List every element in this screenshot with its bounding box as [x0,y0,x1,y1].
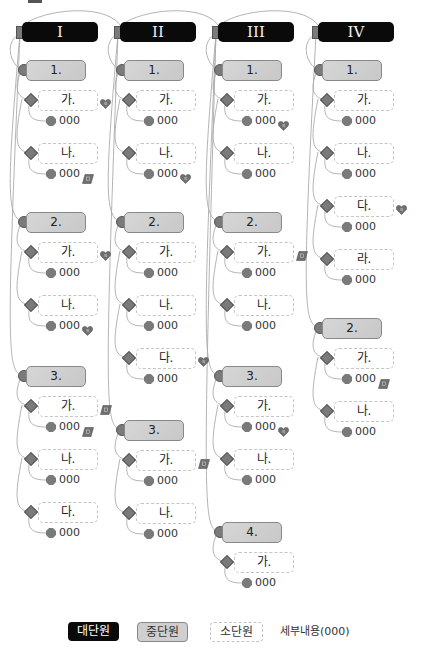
minor-unit-marker-icon [220,146,234,160]
minor-unit-node[interactable]: 가. [38,396,98,417]
minor-unit-node[interactable]: 가. [334,348,394,369]
detail-content[interactable]: 000 [59,267,80,279]
heart-icon: 의 [278,116,289,126]
detail-content[interactable]: 000 [255,577,276,589]
detail-marker-icon [144,374,154,384]
detail-content[interactable]: 000 [255,267,276,279]
mid-unit-node[interactable]: 3. [124,420,184,441]
mid-unit-node[interactable]: 1. [26,60,86,81]
minor-unit-node[interactable]: 나. [38,143,98,164]
detail-marker-icon [46,169,56,179]
minor-unit-node[interactable]: 가. [38,242,98,263]
detail-content[interactable]: 000 [255,168,276,180]
detail-content[interactable]: 000 [157,115,178,127]
note-icon [378,374,390,384]
detail-marker-icon [242,268,252,278]
detail-marker-icon [242,475,252,485]
mid-unit-node[interactable]: 2. [222,212,282,233]
detail-content[interactable]: 000 [157,267,178,279]
minor-unit-node[interactable]: 가. [234,396,294,417]
detail-marker-icon [144,268,154,278]
detail-marker-icon [144,116,154,126]
mid-unit-node[interactable]: 2. [26,212,86,233]
note-icon [82,422,94,432]
minor-unit-marker-icon [122,351,136,365]
mid-unit-node[interactable]: 4. [222,522,282,543]
mid-unit-node[interactable]: 3. [222,366,282,387]
detail-marker-icon [144,169,154,179]
detail-content[interactable]: 000 [157,528,178,540]
detail-content[interactable]: 000 [255,474,276,486]
heart-icon: 의 [278,422,289,432]
detail-marker-icon [144,321,154,331]
minor-unit-node[interactable]: 나. [234,143,294,164]
detail-content[interactable]: 000 [59,474,80,486]
detail-content[interactable]: 000 [255,421,276,433]
minor-unit-node[interactable]: 나. [334,143,394,164]
detail-marker-icon [242,116,252,126]
minor-unit-node[interactable]: 가. [234,90,294,111]
major-unit-node[interactable]: II [120,22,196,42]
minor-unit-node[interactable]: 가. [136,450,196,471]
detail-content[interactable]: 000 [157,373,178,385]
detail-content[interactable]: 000 [59,168,80,180]
minor-unit-marker-icon [122,298,136,312]
mid-unit-node[interactable]: 2. [322,318,382,339]
minor-unit-node[interactable]: 나. [38,449,98,470]
detail-content[interactable]: 000 [255,320,276,332]
minor-unit-node[interactable]: 다. [334,196,394,217]
detail-content[interactable]: 000 [157,475,178,487]
svg-text:의: 의 [400,207,403,212]
minor-unit-marker-icon [24,146,38,160]
major-unit-node[interactable]: I [22,22,98,42]
heart-icon: 의 [198,352,209,362]
minor-unit-marker-icon [122,506,136,520]
minor-unit-node[interactable]: 가. [136,90,196,111]
major-unit-node[interactable]: III [218,22,294,42]
detail-content[interactable]: 000 [255,115,276,127]
detail-content[interactable]: 000 [355,274,376,286]
svg-text:의: 의 [202,359,205,364]
mid-unit-node[interactable]: 1. [222,60,282,81]
detail-content[interactable]: 000 [355,168,376,180]
detail-content[interactable]: 000 [157,320,178,332]
detail-content[interactable]: 000 [355,373,376,385]
minor-unit-node[interactable]: 다. [136,348,196,369]
minor-unit-node[interactable]: 나. [234,449,294,470]
detail-content[interactable]: 000 [157,168,178,180]
legend-mid-unit: 중단원 [137,622,188,642]
minor-unit-node[interactable]: 가. [334,90,394,111]
detail-marker-icon [242,321,252,331]
minor-unit-node[interactable]: 가. [38,90,98,111]
mid-unit-node[interactable]: 1. [322,60,382,81]
detail-content[interactable]: 000 [355,221,376,233]
detail-content[interactable]: 000 [59,115,80,127]
detail-content[interactable]: 000 [59,320,80,332]
minor-unit-marker-icon [320,252,334,266]
detail-content[interactable]: 000 [59,421,80,433]
legend-major-unit: 대단원 [68,622,119,641]
minor-unit-node[interactable]: 나. [136,143,196,164]
minor-unit-node[interactable]: 나. [136,295,196,316]
minor-unit-node[interactable]: 나. [38,295,98,316]
mid-unit-node[interactable]: 1. [124,60,184,81]
minor-unit-marker-icon [220,399,234,413]
minor-unit-marker-icon [320,404,334,418]
detail-content[interactable]: 000 [355,115,376,127]
note-icon [296,246,308,256]
minor-unit-node[interactable]: 나. [334,401,394,422]
minor-unit-node[interactable]: 다. [38,502,98,523]
major-unit-node[interactable]: IV [318,22,394,42]
detail-content[interactable]: 000 [59,527,80,539]
minor-unit-marker-icon [320,351,334,365]
mid-unit-node[interactable]: 3. [26,366,86,387]
minor-unit-marker-icon [220,452,234,466]
minor-unit-node[interactable]: 나. [136,503,196,524]
detail-content[interactable]: 000 [355,426,376,438]
mid-unit-node[interactable]: 2. [124,212,184,233]
minor-unit-node[interactable]: 나. [234,295,294,316]
minor-unit-node[interactable]: 라. [334,249,394,270]
minor-unit-node[interactable]: 가. [234,552,294,573]
minor-unit-node[interactable]: 가. [234,242,294,263]
minor-unit-node[interactable]: 가. [136,242,196,263]
